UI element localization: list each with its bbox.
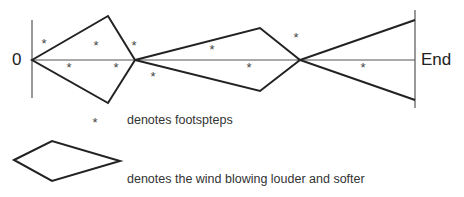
footstep-asterisk: * [150, 70, 155, 83]
footstep-asterisk: * [293, 31, 298, 44]
legend-asterisk-icon: * [92, 116, 97, 129]
footstep-asterisk: * [209, 43, 214, 56]
end-label: End [421, 50, 451, 70]
footstep-asterisk: * [41, 37, 46, 50]
footstep-asterisk: * [66, 61, 71, 74]
legend-diamond-icon [14, 141, 120, 181]
start-label: 0 [12, 50, 21, 70]
legend-footsteps-label: denotes footspteps [127, 113, 233, 127]
footstep-asterisk: * [93, 39, 98, 52]
footstep-asterisk: * [360, 61, 365, 74]
footstep-asterisk: * [113, 61, 118, 74]
score-diagram [0, 0, 464, 197]
footstep-asterisk: * [131, 39, 136, 52]
legend-wind-label: denotes the wind blowing louder and soft… [127, 172, 365, 186]
footstep-asterisk: * [246, 61, 251, 74]
